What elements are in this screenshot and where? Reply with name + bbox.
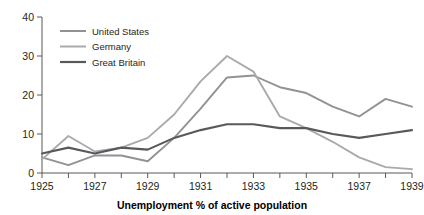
y-axis-tick-label: 20 [22, 89, 34, 101]
legend-label-germany: Germany [92, 41, 131, 52]
x-axis: 19251927192919311933193519371939 [30, 173, 424, 192]
x-axis-tick-label: 1935 [295, 180, 319, 192]
y-axis-tick-label: 40 [22, 11, 34, 23]
legend-label-united-states: United States [92, 26, 149, 37]
x-axis-tick-label: 1933 [242, 180, 266, 192]
x-axis-tick-label: 1939 [400, 180, 424, 192]
y-axis: 010203040 [22, 11, 42, 179]
x-axis-tick-label: 1929 [136, 180, 160, 192]
x-axis-title: Unemployment % of active population [117, 199, 307, 211]
y-axis-tick-label: 10 [22, 128, 34, 140]
y-axis-tick-label: 30 [22, 50, 34, 62]
unemployment-line-chart: 010203040 192519271929193119331935193719… [0, 0, 424, 215]
series-line-great-britain [42, 124, 412, 153]
x-axis-tick-label: 1927 [83, 180, 107, 192]
chart-canvas: 010203040 192519271929193119331935193719… [0, 0, 424, 215]
y-axis-tick-label: 0 [28, 167, 34, 179]
x-axis-tick-label: 1937 [347, 180, 371, 192]
chart-legend: United StatesGermanyGreat Britain [60, 26, 149, 68]
series-lines [42, 56, 412, 169]
legend-label-great-britain: Great Britain [92, 57, 145, 68]
x-axis-tick-label: 1925 [30, 180, 54, 192]
x-axis-tick-label: 1931 [189, 180, 213, 192]
